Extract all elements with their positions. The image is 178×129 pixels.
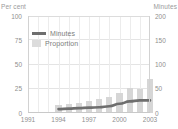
chart-legend: Minutes Proportion [32, 29, 78, 49]
chart-title-remnant [52, 0, 132, 1]
plot-left-axis [28, 16, 29, 113]
left-tick-label: 50 [0, 61, 22, 68]
right-tick-label: 200 [155, 13, 166, 20]
x-tick-label: 1997 [77, 116, 101, 123]
left-axis-ticks: 1007550250 [0, 16, 25, 113]
x-tick-label: 1994 [47, 116, 71, 123]
left-axis-caption: Per cent [1, 3, 26, 10]
plot-baseline [28, 112, 150, 113]
legend-label-proportion: Proportion [45, 40, 78, 47]
x-axis-ticks: 19911994199720002003 [28, 115, 150, 127]
line-path [59, 100, 151, 109]
x-tick-label: 2000 [108, 116, 132, 123]
right-tick-label: 150 [155, 37, 166, 44]
left-tick-label: 100 [0, 13, 22, 20]
left-tick-label: 75 [0, 37, 22, 44]
right-tick-label: 50 [155, 85, 162, 92]
right-axis-caption: Minutes [154, 3, 177, 10]
legend-item-minutes: Minutes [32, 29, 78, 38]
right-tick-label: 100 [155, 61, 166, 68]
left-tick-label: 25 [0, 85, 22, 92]
plot-top-border [28, 16, 150, 17]
legend-label-minutes: Minutes [50, 30, 75, 37]
x-tick-label: 1991 [16, 116, 40, 123]
legend-line-swatch-icon [32, 32, 46, 35]
legend-item-proportion: Proportion [32, 39, 78, 48]
legend-bar-swatch-icon [32, 40, 41, 47]
right-axis-ticks: 200150100500 [152, 16, 178, 113]
plot-right-axis [149, 16, 150, 113]
chart-container: Per cent Minutes 1007550250 200150100500… [0, 0, 178, 129]
x-tick-label: 2003 [138, 116, 162, 123]
